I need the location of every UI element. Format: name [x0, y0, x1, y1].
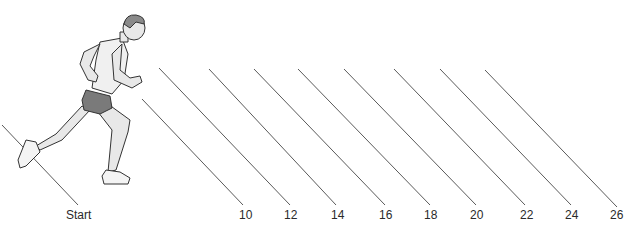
marker-label-16: 16	[379, 209, 392, 221]
marker-label-24: 24	[565, 209, 578, 221]
marker-label-10: 10	[239, 209, 252, 221]
marker-line-26	[485, 70, 617, 207]
marker-label-18: 18	[424, 209, 437, 221]
diagram-canvas	[0, 0, 629, 231]
marker-label-14: 14	[331, 209, 344, 221]
runner-shorts	[82, 90, 112, 114]
marker-label-12: 12	[284, 209, 297, 221]
marker-line-12	[159, 68, 290, 205]
runner-back-shoe	[18, 140, 40, 168]
marker-label-26: 26	[610, 209, 623, 221]
marker-line-10	[142, 99, 243, 205]
marker-label-20: 20	[470, 209, 483, 221]
marker-line-start	[2, 125, 78, 205]
marker-line-14	[209, 69, 336, 205]
runner-front-shoe	[102, 170, 130, 184]
runner-back-leg	[36, 106, 90, 150]
runner-front-leg	[98, 104, 130, 172]
marker-label-start: Start	[66, 209, 91, 221]
runner-figure	[18, 15, 145, 184]
marker-line-16	[254, 69, 385, 205]
marker-label-22: 22	[520, 209, 533, 221]
